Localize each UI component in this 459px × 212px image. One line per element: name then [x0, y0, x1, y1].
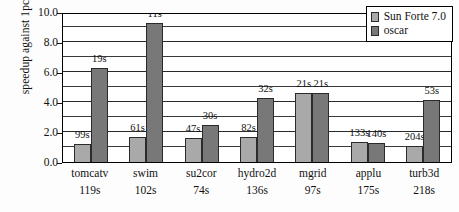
bar: 11s	[146, 23, 163, 162]
x-axis-category-baseline: 97s	[285, 182, 341, 199]
bar-value-label: 21s	[314, 79, 329, 90]
legend-item: oscar	[371, 24, 446, 38]
y-axis-tick-label: 4.0	[44, 97, 58, 109]
x-axis-category-baseline: 175s	[341, 182, 397, 199]
bar-group: 99s19s	[63, 14, 118, 162]
bar-value-label: 140s	[366, 129, 386, 140]
bar-value-label: 21s	[297, 79, 312, 90]
bar-value-label: 30s	[203, 111, 218, 122]
bar: 19s	[91, 68, 108, 162]
bar-value-label: 32s	[258, 84, 273, 95]
legend-item-label: oscar	[384, 25, 408, 37]
x-axis-category: su2cor74s	[173, 165, 229, 209]
legend-item-label: Sun Forte 7.0	[384, 11, 446, 23]
bar-value-label: 204s	[405, 132, 425, 143]
x-axis-category-baseline: 119s	[62, 182, 118, 199]
bar: 140s	[368, 143, 385, 162]
legend-swatch-icon	[371, 12, 379, 22]
x-axis-category-name: applu	[341, 165, 397, 182]
bar: 53s	[423, 100, 440, 162]
x-axis-category: tomcatv119s	[62, 165, 118, 209]
x-axis-category: hydro2d136s	[229, 165, 285, 209]
x-axis-category-name: hydro2d	[229, 165, 285, 182]
bar: 204s	[406, 146, 423, 162]
x-axis-category: swim102s	[118, 165, 174, 209]
x-axis-category: applu175s	[341, 165, 397, 209]
bar-value-label: 11s	[148, 13, 162, 19]
x-axis-category-name: tomcatv	[62, 165, 118, 182]
bar-value-label: 53s	[424, 86, 439, 97]
x-axis-category-baseline: 74s	[173, 182, 229, 199]
bar-value-label: 82s	[241, 123, 256, 134]
bar: 21s	[295, 93, 312, 162]
x-axis-category-name: turb3d	[396, 165, 452, 182]
x-axis-category-name: mgrid	[285, 165, 341, 182]
bar-group: 21s21s	[285, 14, 340, 162]
x-axis-category: turb3d218s	[396, 165, 452, 209]
bar: 32s	[257, 98, 274, 162]
y-axis-tick-label: 10.0	[38, 7, 58, 19]
bar-value-label: 19s	[92, 54, 107, 65]
bar-value-label: 99s	[75, 130, 90, 141]
bar-group: 47s30s	[174, 14, 229, 162]
x-axis-category-name: su2cor	[173, 165, 229, 182]
y-axis-tick-label: 8.0	[44, 37, 58, 49]
bar-value-label: 47s	[186, 124, 201, 135]
x-axis-category-baseline: 218s	[396, 182, 452, 199]
y-axis-tick-label: 0.0	[44, 157, 58, 169]
bar: 99s	[74, 144, 91, 162]
bar-group: 82s32s	[229, 14, 284, 162]
bar-group: 61s11s	[118, 14, 173, 162]
x-axis-category: mgrid97s	[285, 165, 341, 209]
y-axis-tick-labels: 0.02.04.06.08.010.0	[24, 13, 60, 163]
legend-swatch-icon	[371, 26, 379, 36]
x-axis-category-name: swim	[118, 165, 174, 182]
bar: 47s	[185, 138, 202, 162]
bar: 133s	[351, 142, 368, 162]
legend: Sun Forte 7.0 oscar	[366, 6, 453, 42]
bar: 30s	[202, 125, 219, 162]
x-axis-labels: tomcatv119sswim102ssu2cor74shydro2d136sm…	[62, 165, 452, 209]
bar: 21s	[312, 93, 329, 162]
x-axis-category-baseline: 102s	[118, 182, 174, 199]
bar: 61s	[129, 137, 146, 162]
x-axis-category-baseline: 136s	[229, 182, 285, 199]
y-axis-tick-label: 2.0	[44, 127, 58, 139]
bar-value-label: 61s	[130, 123, 145, 134]
y-axis-tick-label: 6.0	[44, 67, 58, 79]
legend-item: Sun Forte 7.0	[371, 10, 446, 24]
speedup-bar-chart: speedup against 1pc 0.02.04.06.08.010.0 …	[0, 0, 459, 212]
bar: 82s	[240, 137, 257, 162]
